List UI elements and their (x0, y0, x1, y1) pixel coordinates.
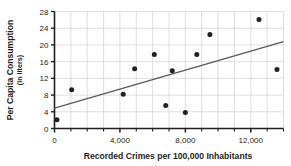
data-point (121, 92, 126, 97)
x-tick-label: 8,000 (175, 136, 196, 145)
scatter-plot-figure: 048121620242804,0008,00012,000 Recorded … (0, 0, 291, 166)
y-axis-title: Per Capita Consumption (5, 20, 15, 120)
data-point (274, 67, 279, 72)
data-point (69, 87, 74, 92)
x-tick-label: 4,000 (110, 136, 131, 145)
y-tick-label: 8 (44, 91, 49, 100)
data-point (163, 103, 168, 108)
y-tick-label: 28 (40, 8, 49, 17)
y-tick-label: 4 (44, 108, 49, 117)
data-point (207, 32, 212, 37)
x-tick-label: 0 (52, 136, 57, 145)
data-points (54, 17, 279, 122)
y-axis-subtitle: (in liters) (15, 54, 24, 85)
data-point (54, 117, 59, 122)
x-tick-label: 12,000 (239, 136, 264, 145)
chart-canvas: 048121620242804,0008,00012,000 Recorded … (0, 0, 291, 166)
data-point (256, 17, 261, 22)
y-tick-label: 12 (40, 74, 49, 83)
y-tick-label: 0 (44, 125, 49, 134)
data-point (132, 66, 137, 71)
axis-ticks (51, 12, 284, 133)
data-point (152, 52, 157, 57)
gridlines (55, 12, 284, 129)
x-axis-title: Recorded Crimes per 100,000 Inhabitants (84, 151, 253, 161)
data-point (170, 68, 175, 73)
y-tick-label: 24 (40, 24, 49, 33)
data-point (194, 52, 199, 57)
y-tick-label: 20 (40, 41, 49, 50)
y-tick-label: 16 (40, 58, 49, 67)
data-point (183, 110, 188, 115)
